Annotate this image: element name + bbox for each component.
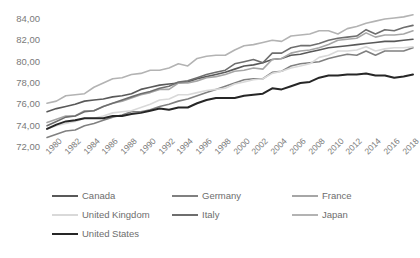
legend-item[interactable]: Italy <box>172 209 219 220</box>
x-axis-labels: 1980198219841986198819901992199419961998… <box>47 150 413 186</box>
legend-label: Canada <box>82 190 115 201</box>
legend-swatch <box>52 214 78 216</box>
legend-item[interactable]: United Kingdom <box>52 209 150 220</box>
legend-item[interactable]: France <box>292 190 352 201</box>
chart-legend: CanadaGermanyFrance United KingdomItalyJ… <box>52 190 412 252</box>
series-line <box>47 47 413 129</box>
legend-swatch <box>172 214 198 216</box>
series-line <box>47 15 413 104</box>
legend-swatch <box>52 195 78 197</box>
legend-row: United KingdomItalyJapan <box>52 209 412 226</box>
y-tick-label: 84,00 <box>16 14 40 24</box>
y-tick-label: 80,00 <box>16 57 40 67</box>
y-tick-label: 72,00 <box>16 142 40 152</box>
legend-item[interactable]: Japan <box>292 209 348 220</box>
legend-row: CanadaGermanyFrance <box>52 190 412 207</box>
legend-row: United States <box>52 228 412 245</box>
y-tick-label: 74,00 <box>16 121 40 131</box>
legend-label: United Kingdom <box>82 209 150 220</box>
legend-label: Germany <box>202 190 241 201</box>
legend-item[interactable]: Canada <box>52 190 115 201</box>
legend-swatch <box>292 214 318 216</box>
legend-item[interactable]: Germany <box>172 190 241 201</box>
y-tick-label: 82,00 <box>16 35 40 45</box>
series-line <box>47 48 413 138</box>
legend-label: Italy <box>202 209 219 220</box>
legend-label: United States <box>82 228 139 239</box>
legend-label: Japan <box>322 209 348 220</box>
legend-item[interactable]: United States <box>52 228 139 239</box>
legend-swatch <box>52 233 78 235</box>
legend-label: France <box>322 190 352 201</box>
y-tick-label: 76,00 <box>16 99 40 109</box>
y-tick-label: 78,00 <box>16 78 40 88</box>
plot-area <box>47 8 413 150</box>
series-line <box>47 25 413 125</box>
legend-swatch <box>292 195 318 197</box>
y-axis-labels: 84,0082,0080,0078,0076,0074,0072,00 <box>0 0 44 160</box>
legend-swatch <box>172 195 198 197</box>
series-canvas <box>47 8 413 150</box>
